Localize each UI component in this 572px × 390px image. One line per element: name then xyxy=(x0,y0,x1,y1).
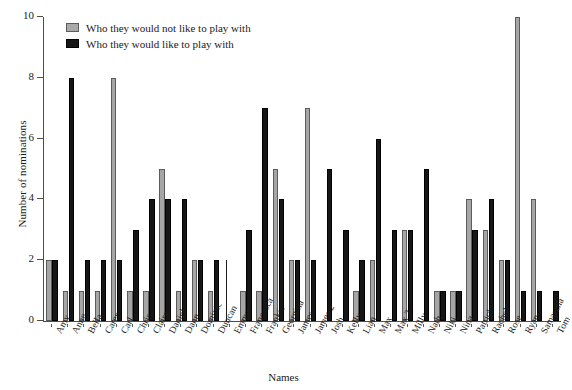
x-tick xyxy=(229,324,230,327)
bar-max-like xyxy=(376,139,381,321)
bar-group xyxy=(464,17,480,321)
legend-swatch-gray-icon xyxy=(66,23,79,32)
bars-layer xyxy=(44,17,561,321)
y-axis-title: Number of nominations xyxy=(16,59,28,289)
y-tick-6: 6 xyxy=(37,138,43,139)
bar-group xyxy=(206,17,222,321)
y-tick-10: 10 xyxy=(37,16,43,17)
x-tick xyxy=(503,324,504,327)
x-axis-title: Names xyxy=(0,371,567,383)
plot-area: 0246810 xyxy=(43,17,561,322)
bar-group xyxy=(513,17,529,321)
x-tick xyxy=(326,324,327,327)
x-tick xyxy=(342,324,343,327)
bar-milly-like xyxy=(408,230,413,321)
bar-group xyxy=(254,17,270,321)
bar-group xyxy=(367,17,383,321)
x-tick xyxy=(100,324,101,327)
y-tick-2: 2 xyxy=(37,259,43,260)
x-tick xyxy=(423,324,424,327)
y-tick-label-6: 6 xyxy=(29,131,35,144)
bar-chris-like xyxy=(133,230,138,321)
x-tick xyxy=(358,324,359,327)
bar-kelly-like xyxy=(343,230,348,321)
x-tick xyxy=(164,324,165,327)
x-tick xyxy=(83,324,84,327)
bar-josh-like xyxy=(327,169,332,321)
x-tick xyxy=(439,324,440,327)
y-tick-0: 0 xyxy=(37,320,43,321)
bar-georgina-not-like xyxy=(273,169,278,321)
y-tick-4: 4 xyxy=(37,198,43,199)
bar-nina-like xyxy=(456,291,461,321)
bar-dominic-like xyxy=(198,260,203,321)
bar-patrick-not-like xyxy=(466,199,471,321)
x-tick xyxy=(374,324,375,327)
bar-ryan-not-like xyxy=(515,17,520,321)
x-tick xyxy=(261,324,262,327)
legend-label-like: Who they would like to play with xyxy=(86,38,234,50)
x-tick xyxy=(536,324,537,327)
y-tick-label-2: 2 xyxy=(29,252,35,265)
x-tick xyxy=(51,324,52,327)
bar-group xyxy=(109,17,125,321)
x-tick xyxy=(213,324,214,327)
x-tick xyxy=(407,324,408,327)
bar-group xyxy=(60,17,76,321)
x-tick xyxy=(455,324,456,327)
bar-group xyxy=(238,17,254,321)
x-tick xyxy=(310,324,311,327)
bar-max-not-like xyxy=(370,260,375,321)
bar-group xyxy=(286,17,302,321)
bar-frankie-like xyxy=(262,108,267,321)
bar-group xyxy=(399,17,415,321)
x-tick xyxy=(487,324,488,327)
bar-group xyxy=(222,17,238,321)
x-tick xyxy=(148,324,149,327)
y-tick-label-4: 4 xyxy=(29,191,35,204)
x-tick xyxy=(245,324,246,327)
bar-group xyxy=(125,17,141,321)
x-tick xyxy=(293,324,294,327)
bar-group xyxy=(480,17,496,321)
y-tick-label-10: 10 xyxy=(23,9,34,22)
bar-amy-like xyxy=(52,260,57,321)
bar-nath-like xyxy=(424,169,429,321)
bar-max-2-like xyxy=(392,230,397,321)
bar-group xyxy=(383,17,399,321)
bar-caren-like xyxy=(101,260,106,321)
bar-samantha-not-like xyxy=(531,199,536,321)
legend-item-not-like: Who they would not like to play with xyxy=(66,20,251,35)
bar-group xyxy=(270,17,286,321)
bar-group xyxy=(44,17,60,321)
y-tick-label-8: 8 xyxy=(29,70,35,83)
bar-group xyxy=(545,17,561,321)
bar-group xyxy=(189,17,205,321)
bar-group xyxy=(303,17,319,321)
bar-group xyxy=(92,17,108,321)
bar-bella-like xyxy=(85,260,90,321)
bar-group xyxy=(141,17,157,321)
bar-anne-like xyxy=(69,78,74,321)
x-tick xyxy=(471,324,472,327)
bar-group xyxy=(529,17,545,321)
bar-group xyxy=(157,17,173,321)
x-tick xyxy=(390,324,391,327)
bar-group xyxy=(351,17,367,321)
bar-group xyxy=(448,17,464,321)
legend-swatch-black-icon xyxy=(66,39,79,48)
bar-amy-not-like xyxy=(46,260,51,321)
bar-group xyxy=(496,17,512,321)
bar-dann-like xyxy=(182,199,187,321)
bar-rachel-like xyxy=(489,199,494,321)
x-tick xyxy=(116,324,117,327)
bar-daniel-not-like xyxy=(159,169,164,321)
x-tick xyxy=(67,324,68,327)
x-tick xyxy=(196,324,197,327)
bar-group xyxy=(76,17,92,321)
bar-daniel-like xyxy=(165,199,170,321)
bar-francesca-like xyxy=(246,230,251,321)
legend-label-not-like: Who they would not like to play with xyxy=(86,22,251,34)
bar-carl-not-like xyxy=(111,78,116,321)
y-tick-label-0: 0 xyxy=(29,313,35,326)
